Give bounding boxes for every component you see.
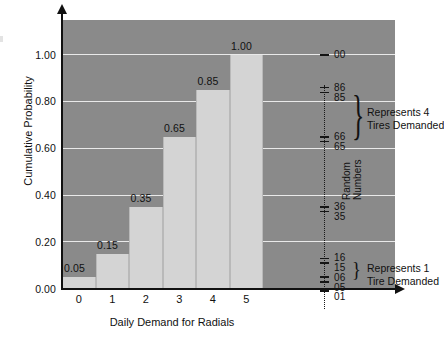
x-tick-label-0: 0 bbox=[64, 293, 94, 305]
page-edge-artifact bbox=[0, 36, 3, 42]
callout-4-tires-line1: Represents 4 bbox=[367, 106, 444, 119]
bar-label-1: 0.15 bbox=[97, 239, 118, 251]
x-axis-arrow bbox=[395, 284, 405, 294]
bar-2 bbox=[129, 207, 163, 289]
x-tick-label-3: 3 bbox=[164, 293, 194, 305]
random-number-tick-36 bbox=[320, 206, 329, 208]
x-tick-label-1: 1 bbox=[97, 293, 127, 305]
x-tick-label-4: 4 bbox=[198, 293, 228, 305]
y-tick-label-0.60: 0.60 bbox=[35, 142, 56, 154]
random-number-tick-86 bbox=[320, 87, 329, 89]
random-number-label-01: 01 bbox=[334, 291, 346, 302]
brace-4-tires: } bbox=[352, 86, 364, 142]
bar-label-3: 0.65 bbox=[164, 122, 185, 134]
x-axis-title: Daily Demand for Radials bbox=[62, 316, 282, 328]
random-number-tick-00 bbox=[320, 54, 329, 56]
random-number-label-35: 35 bbox=[334, 211, 346, 222]
y-tick-label-0.00: 0.00 bbox=[35, 283, 56, 295]
random-number-label-00: 00 bbox=[334, 49, 346, 60]
x-tick-label-2: 2 bbox=[131, 293, 161, 305]
y-tick-label-0.40: 0.40 bbox=[35, 189, 56, 201]
callout-1-tire-line1: Represents 1 bbox=[367, 262, 439, 275]
random-number-tick-15 bbox=[320, 262, 329, 264]
y-axis-arrow bbox=[57, 4, 67, 14]
random-number-tick-16 bbox=[320, 258, 329, 260]
bar-4 bbox=[196, 90, 230, 289]
y-axis-line bbox=[61, 12, 63, 290]
bar-1 bbox=[96, 254, 130, 289]
random-number-label-85: 85 bbox=[334, 92, 346, 103]
random-number-label-65: 65 bbox=[334, 141, 346, 152]
callout-4-tires: Represents 4 Tires Demanded bbox=[367, 106, 444, 132]
random-number-tick-05 bbox=[320, 281, 329, 283]
bar-label-4: 0.85 bbox=[198, 75, 219, 87]
x-axis-line bbox=[61, 288, 396, 290]
callout-4-tires-line2: Tires Demanded bbox=[367, 119, 444, 132]
random-number-tick-66 bbox=[320, 136, 329, 138]
y-axis-title: Cumulative Probability bbox=[22, 41, 34, 221]
random-number-axis-line bbox=[324, 85, 325, 309]
bar-5 bbox=[230, 55, 264, 289]
brace-1-tire: } bbox=[352, 258, 361, 280]
bar-label-5: 1.00 bbox=[231, 40, 252, 52]
y-tick-label-0.20: 0.20 bbox=[35, 236, 56, 248]
x-tick-label-5: 5 bbox=[231, 293, 261, 305]
random-number-tick-65 bbox=[320, 141, 329, 143]
bar-3 bbox=[163, 137, 197, 289]
y-tick-label-0.80: 0.80 bbox=[35, 95, 56, 107]
random-number-tick-01 bbox=[320, 290, 329, 292]
random-number-tick-06 bbox=[320, 276, 329, 278]
plot-area: 0.05 0.15 0.35 0.65 0.85 1.00 00 86 85 6… bbox=[62, 20, 395, 289]
bar-label-0: 0.05 bbox=[64, 262, 85, 274]
random-numbers-axis-title-line1: Random bbox=[341, 162, 352, 200]
y-tick-label-1.00: 1.00 bbox=[35, 49, 56, 61]
random-numbers-axis-title-line2: Numbers bbox=[352, 159, 363, 200]
bar-label-2: 0.35 bbox=[131, 192, 152, 204]
random-number-tick-35 bbox=[320, 211, 329, 213]
random-number-tick-85 bbox=[320, 92, 329, 94]
